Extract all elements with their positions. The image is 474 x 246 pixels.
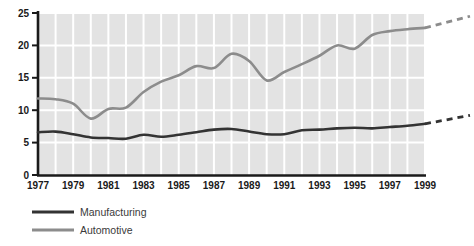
legend-label: Automotive <box>80 224 133 236</box>
y-tick-label: 0 <box>23 170 29 181</box>
y-axis-tick-labels: 0510152025 <box>18 8 30 181</box>
chart-legend: ManufacturingAutomotive <box>32 206 147 236</box>
x-tick-label: 1993 <box>308 180 331 191</box>
x-tick-label: 1977 <box>27 180 50 191</box>
x-tick-label: 1999 <box>414 180 437 191</box>
x-tick-label: 1979 <box>62 180 85 191</box>
y-tick-label: 20 <box>18 40 30 51</box>
x-tick-label: 1995 <box>344 180 367 191</box>
x-tick-label: 1989 <box>238 180 261 191</box>
chart-svg: 0510152025 19771979198119831985198719891… <box>0 0 474 246</box>
y-tick-label: 15 <box>18 72 30 83</box>
y-tick-label: 10 <box>18 105 30 116</box>
legend-label: Manufacturing <box>80 206 147 218</box>
x-axis-tick-labels: 1977197919811983198519871989199119931995… <box>27 180 437 191</box>
x-tick-label: 1987 <box>203 180 226 191</box>
series-projection-manufacturing <box>425 115 470 123</box>
y-tick-label: 25 <box>18 8 30 19</box>
x-tick-label: 1983 <box>132 180 155 191</box>
y-tick-label: 5 <box>23 137 29 148</box>
x-tick-label: 1985 <box>168 180 191 191</box>
series-projection-automotive <box>425 16 470 28</box>
x-tick-label: 1997 <box>379 180 402 191</box>
line-chart: 0510152025 19771979198119831985198719891… <box>0 0 474 246</box>
x-tick-label: 1981 <box>97 180 120 191</box>
x-tick-label: 1991 <box>273 180 296 191</box>
